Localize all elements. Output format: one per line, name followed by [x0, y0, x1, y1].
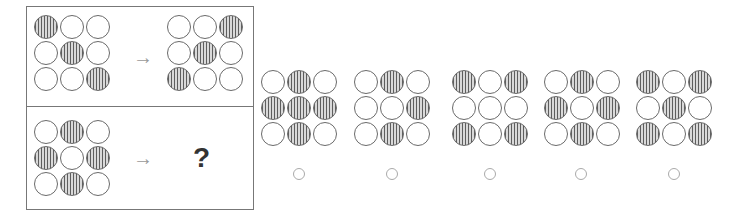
- empty-circle: [478, 96, 502, 120]
- empty-circle: [452, 96, 476, 120]
- question-divider: [26, 106, 254, 107]
- striped-circle: [287, 96, 311, 120]
- empty-circle: [636, 96, 660, 120]
- striped-circle: [60, 41, 84, 65]
- empty-circle: [596, 122, 620, 146]
- empty-circle: [662, 122, 686, 146]
- striped-circle: [636, 70, 660, 94]
- empty-circle: [219, 67, 243, 91]
- empty-circle: [544, 70, 568, 94]
- empty-circle: [478, 70, 502, 94]
- striped-circle: [570, 122, 594, 146]
- empty-circle: [34, 41, 58, 65]
- empty-circle: [86, 172, 110, 196]
- empty-circle: [354, 122, 378, 146]
- empty-circle: [34, 67, 58, 91]
- empty-circle: [406, 122, 430, 146]
- striped-circle: [380, 70, 404, 94]
- striped-circle: [380, 122, 404, 146]
- striped-circle: [60, 120, 84, 144]
- empty-circle: [313, 70, 337, 94]
- striped-circle: [287, 122, 311, 146]
- empty-circle: [60, 67, 84, 91]
- striped-circle: [34, 146, 58, 170]
- empty-circle: [354, 70, 378, 94]
- striped-circle: [636, 122, 660, 146]
- striped-circle: [688, 70, 712, 94]
- example-source-grid: [34, 15, 110, 91]
- striped-circle: [570, 70, 594, 94]
- striped-circle: [219, 15, 243, 39]
- example-arrow-icon: →: [133, 47, 153, 67]
- option-b-grid: [354, 70, 430, 146]
- empty-circle: [261, 70, 285, 94]
- striped-circle: [261, 96, 285, 120]
- option-b-radio[interactable]: [386, 168, 398, 180]
- empty-circle: [86, 120, 110, 144]
- empty-circle: [544, 122, 568, 146]
- striped-circle: [193, 41, 217, 65]
- striped-circle: [544, 96, 568, 120]
- option-d-grid: [544, 70, 620, 146]
- striped-circle: [596, 96, 620, 120]
- striped-circle: [504, 70, 528, 94]
- option-a-radio[interactable]: [293, 168, 305, 180]
- striped-circle: [167, 67, 191, 91]
- striped-circle: [313, 96, 337, 120]
- option-c-grid: [452, 70, 528, 146]
- option-e-grid: [636, 70, 712, 146]
- empty-circle: [570, 96, 594, 120]
- empty-circle: [219, 41, 243, 65]
- empty-circle: [193, 15, 217, 39]
- striped-circle: [86, 67, 110, 91]
- empty-circle: [167, 41, 191, 65]
- empty-circle: [86, 15, 110, 39]
- empty-circle: [34, 172, 58, 196]
- striped-circle: [504, 122, 528, 146]
- empty-circle: [167, 15, 191, 39]
- option-a-grid: [261, 70, 337, 146]
- striped-circle: [406, 96, 430, 120]
- empty-circle: [596, 70, 620, 94]
- striped-circle: [60, 172, 84, 196]
- striped-circle: [688, 122, 712, 146]
- unknown-answer-mark: ?: [193, 144, 210, 172]
- striped-circle: [662, 96, 686, 120]
- empty-circle: [34, 120, 58, 144]
- empty-circle: [86, 41, 110, 65]
- striped-circle: [452, 70, 476, 94]
- option-d-radio[interactable]: [575, 168, 587, 180]
- empty-circle: [406, 70, 430, 94]
- empty-circle: [380, 96, 404, 120]
- example-result-grid: [167, 15, 243, 91]
- striped-circle: [287, 70, 311, 94]
- query-source-grid: [34, 120, 110, 196]
- empty-circle: [261, 122, 285, 146]
- empty-circle: [688, 96, 712, 120]
- empty-circle: [478, 122, 502, 146]
- query-arrow-icon: →: [133, 148, 153, 168]
- empty-circle: [662, 70, 686, 94]
- empty-circle: [193, 67, 217, 91]
- striped-circle: [86, 146, 110, 170]
- empty-circle: [60, 146, 84, 170]
- empty-circle: [313, 122, 337, 146]
- empty-circle: [60, 15, 84, 39]
- striped-circle: [34, 15, 58, 39]
- empty-circle: [354, 96, 378, 120]
- option-c-radio[interactable]: [484, 168, 496, 180]
- empty-circle: [504, 96, 528, 120]
- option-e-radio[interactable]: [668, 168, 680, 180]
- striped-circle: [452, 122, 476, 146]
